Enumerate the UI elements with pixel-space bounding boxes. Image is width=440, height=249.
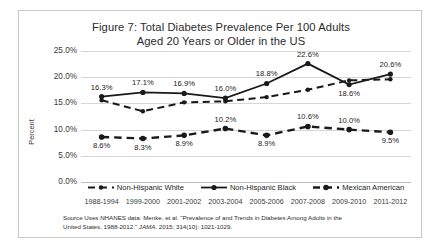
data-label: 10.2% [215, 115, 237, 124]
data-label: 17.1% [132, 78, 154, 87]
legend-label: Non-Hispanic Black [230, 183, 296, 192]
series-marker [388, 129, 394, 135]
data-label: 8.9% [258, 139, 275, 148]
legend-swatch [88, 183, 114, 192]
data-label: 18.8% [256, 69, 278, 78]
chart-title: Figure 7: Total Diabetes Prevalence Per … [19, 20, 423, 48]
series-marker [264, 133, 270, 139]
series-marker [388, 77, 392, 81]
y-axis-tick-label: 25.0% [33, 46, 77, 55]
series-marker [99, 134, 105, 140]
chart-title-line-2: Aged 20 Years or Older in the US [19, 34, 423, 48]
y-axis-tick-label: 20.0% [33, 72, 77, 81]
legend-item: Non-Hispanic Black [201, 183, 296, 192]
chart-legend: Non-Hispanic WhiteNon-Hispanic BlackMexi… [81, 179, 411, 195]
figure-container: Figure 7: Total Diabetes Prevalence Per … [18, 10, 422, 238]
source-note-suffix: . 2015; 314(10): 1021-1029. [155, 223, 232, 230]
data-label: 22.6% [297, 50, 319, 59]
legend-swatch [201, 183, 227, 192]
legend-label: Non-Hispanic White [117, 183, 184, 192]
legend-item: Mexican American [313, 183, 404, 192]
x-axis-tick-label: 2001-2002 [164, 197, 205, 211]
plot-area: 16.3%17.1%16.9%16.0%18.8%22.6%18.6%20.6%… [81, 51, 411, 182]
series-lines [81, 51, 411, 182]
x-axis-tick-label: 1988-1994 [81, 197, 122, 211]
y-axis-tick-label: 10.0% [33, 125, 77, 134]
series-marker [305, 61, 310, 66]
series-marker [99, 94, 104, 99]
series-marker [347, 82, 352, 87]
data-label: 18.6% [338, 89, 360, 98]
data-label: 16.3% [91, 83, 113, 92]
series-marker [140, 136, 146, 142]
series-marker [181, 133, 187, 139]
x-axis-tick-label: 2011-2012 [370, 197, 411, 211]
x-axis-tick-label: 2003-2004 [205, 197, 246, 211]
data-label: 9.5% [382, 136, 399, 145]
series-marker [182, 91, 187, 96]
y-axis-tick-label: 5.0% [33, 151, 77, 160]
series-marker [264, 81, 269, 86]
series-marker [223, 96, 228, 101]
series-marker [346, 127, 352, 133]
series-marker [305, 124, 311, 130]
data-label: 10.0% [338, 116, 360, 125]
x-axis-tick-label: 1999-2000 [122, 197, 163, 211]
x-axis-tick-label: 2009-2010 [329, 197, 370, 211]
source-note-journal: JAMA [139, 223, 156, 230]
source-note: Source Uses NHANES data: Menke, et al. "… [63, 213, 393, 231]
source-note-prefix: United States, 1988-2012." [63, 223, 139, 230]
data-label: 16.9% [173, 79, 195, 88]
series-marker [182, 100, 186, 104]
x-axis-tick-label: 2005-2006 [246, 197, 287, 211]
legend-label: Mexican American [342, 183, 404, 192]
x-axis-tick-label: 2007-2008 [287, 197, 328, 211]
data-label: 20.6% [380, 60, 402, 69]
series-marker [388, 71, 393, 76]
x-axis-tick-labels: 1988-19941999-20002001-20022003-20042005… [81, 197, 411, 211]
source-note-line-1: Source Uses NHANES data: Menke, et al. "… [63, 213, 393, 222]
series-marker [306, 88, 310, 92]
data-label: 8.3% [134, 143, 151, 152]
series-marker [223, 126, 229, 132]
series-marker [264, 95, 268, 99]
y-axis-tick-label: 15.0% [33, 98, 77, 107]
plot-wrapper: Percent 25.0%20.0%15.0%10.0%5.0%0.0% 16.… [19, 51, 423, 211]
legend-swatch [313, 183, 339, 192]
data-label: 8.6% [93, 141, 110, 150]
chart-title-line-1: Figure 7: Total Diabetes Prevalence Per … [19, 20, 423, 34]
series-marker [141, 109, 145, 113]
source-note-line-2: United States, 1988-2012." JAMA. 2015; 3… [63, 222, 393, 231]
series-marker [347, 78, 351, 82]
data-label: 16.0% [215, 84, 237, 93]
legend-item: Non-Hispanic White [88, 183, 184, 192]
y-axis-tick-label: 0.0% [33, 177, 77, 186]
data-label: 10.6% [297, 112, 319, 121]
series-marker [140, 90, 145, 95]
data-label: 8.9% [175, 139, 192, 148]
